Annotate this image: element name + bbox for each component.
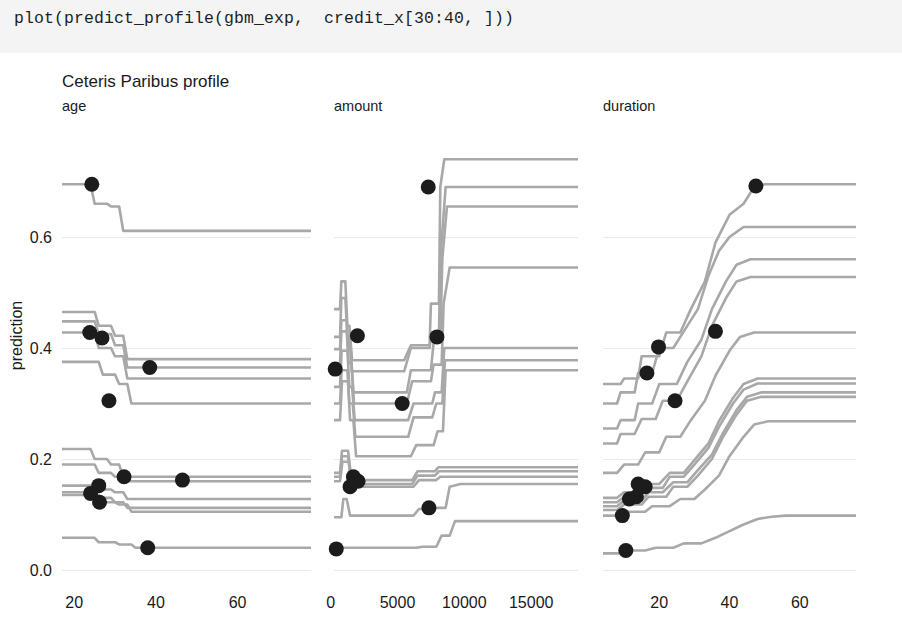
profile-line-amount-obs-4 <box>334 268 578 404</box>
panel-series-age <box>62 184 311 548</box>
observation-point-amount-obs-3 <box>350 328 365 343</box>
x-tick-label-duration-60: 60 <box>791 594 809 611</box>
profile-line-duration-obs-1 <box>603 184 856 384</box>
observation-point-age-obs-4 <box>82 325 97 340</box>
profile-line-age-obs-1 <box>62 184 311 231</box>
observation-point-duration-obs-10 <box>615 508 630 523</box>
observation-point-amount-obs-1 <box>421 180 436 195</box>
profile-line-amount-obs-5 <box>334 348 578 420</box>
code-cell: plot(predict_profile(gbm_exp, credit_x[3… <box>0 0 902 53</box>
observation-point-age-obs-5 <box>101 393 116 408</box>
profile-line-amount-obs-7 <box>334 370 578 456</box>
observation-point-age-obs-7 <box>175 473 190 488</box>
panel-label-amount: amount <box>334 98 382 114</box>
x-tick-label-age-40: 40 <box>147 594 165 611</box>
observation-point-age-obs-3 <box>142 360 157 375</box>
observation-point-duration-obs-4 <box>639 365 654 380</box>
y-tick-label-0.0: 0.0 <box>30 562 52 579</box>
x-tick-label-age-60: 60 <box>229 594 247 611</box>
x-tick-label-amount-10000: 10000 <box>442 594 487 611</box>
x-tick-label-duration-40: 40 <box>721 594 739 611</box>
observation-point-age-obs-11 <box>140 540 155 555</box>
code-line: plot(predict_profile(gbm_exp, credit_x[3… <box>14 8 514 30</box>
profile-line-amount-obs-11 <box>334 484 578 517</box>
observation-point-duration-obs-5 <box>668 393 683 408</box>
x-tick-label-age-20: 20 <box>65 594 83 611</box>
y-tick-label-0.4: 0.4 <box>30 340 52 357</box>
panel-label-duration: duration <box>603 98 655 114</box>
x-tick-label-amount-15000: 15000 <box>509 594 554 611</box>
chart-title: Ceteris Paribus profile <box>62 72 229 91</box>
y-tick-label-0.6: 0.6 <box>30 229 52 246</box>
x-tick-label-duration-20: 20 <box>650 594 668 611</box>
x-tick-label-amount-0: 0 <box>326 594 335 611</box>
observation-point-amount-obs-2 <box>429 329 444 344</box>
observation-point-amount-obs-10 <box>343 479 358 494</box>
observation-point-duration-obs-11 <box>618 543 633 558</box>
observation-point-duration-obs-3 <box>708 324 723 339</box>
profile-line-age-obs-11 <box>62 538 311 548</box>
observation-point-duration-obs-2 <box>651 339 666 354</box>
profile-line-amount-obs-1 <box>334 159 578 360</box>
panel-series-amount <box>334 159 578 548</box>
y-axis-title: prediction <box>8 301 25 370</box>
observation-point-age-obs-6 <box>117 469 132 484</box>
observation-point-amount-obs-4 <box>328 362 343 377</box>
observation-point-age-obs-10 <box>92 495 107 510</box>
observation-point-amount-obs-12 <box>329 541 344 556</box>
profile-line-amount-obs-3 <box>334 206 578 392</box>
profile-line-amount-obs-12 <box>334 521 578 548</box>
chart-canvas: Ceteris Paribus profileprediction0.00.20… <box>0 53 902 626</box>
x-tick-label-amount-5000: 5000 <box>380 594 416 611</box>
profile-line-duration-obs-11 <box>603 516 856 554</box>
observation-point-amount-obs-6 <box>395 396 410 411</box>
ceteris-paribus-plot: Ceteris Paribus profileprediction0.00.20… <box>0 53 902 626</box>
profile-line-amount-obs-2 <box>334 187 578 371</box>
observation-point-duration-obs-1 <box>748 178 763 193</box>
observation-point-duration-obs-9 <box>629 489 644 504</box>
panel-label-age: age <box>62 98 86 114</box>
observation-point-amount-obs-11 <box>421 500 436 515</box>
y-tick-label-0.2: 0.2 <box>30 451 52 468</box>
observation-point-age-obs-1 <box>84 177 99 192</box>
